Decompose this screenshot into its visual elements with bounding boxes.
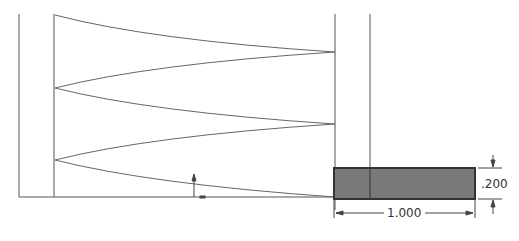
axis-arrows bbox=[192, 174, 205, 198]
cad-drawing bbox=[0, 0, 519, 241]
profile-section bbox=[334, 168, 475, 199]
helix-curve bbox=[55, 15, 335, 197]
width-dimension-label: 1.000 bbox=[387, 207, 421, 219]
arrow-up-icon bbox=[192, 174, 196, 181]
rectangular-profile bbox=[334, 168, 475, 199]
arrow-right-marker bbox=[200, 196, 205, 198]
height-dimension-label: .200 bbox=[481, 178, 508, 190]
